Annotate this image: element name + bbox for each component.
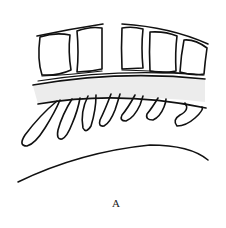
line-drawing — [0, 0, 226, 228]
block-base-left-segment — [42, 71, 102, 76]
loop-4 — [100, 94, 121, 126]
loop-3 — [82, 95, 96, 131]
block-5 — [180, 40, 207, 75]
loop-1 — [22, 100, 60, 146]
block-3 — [122, 27, 144, 69]
loop-2 — [58, 98, 81, 139]
figure-label: A — [0, 197, 226, 209]
block-2 — [77, 27, 102, 72]
block-4 — [150, 32, 178, 73]
block-1 — [39, 34, 71, 75]
lower-arc — [18, 145, 208, 182]
